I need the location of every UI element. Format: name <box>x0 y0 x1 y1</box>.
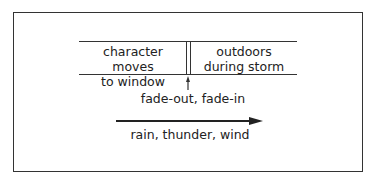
sound-label: rain, thunder, wind <box>120 127 260 142</box>
sound-arrow-icon <box>116 117 263 125</box>
transition-pointer-arrow-icon <box>186 76 190 90</box>
transition-label: fade-out, fade-in <box>138 91 248 106</box>
